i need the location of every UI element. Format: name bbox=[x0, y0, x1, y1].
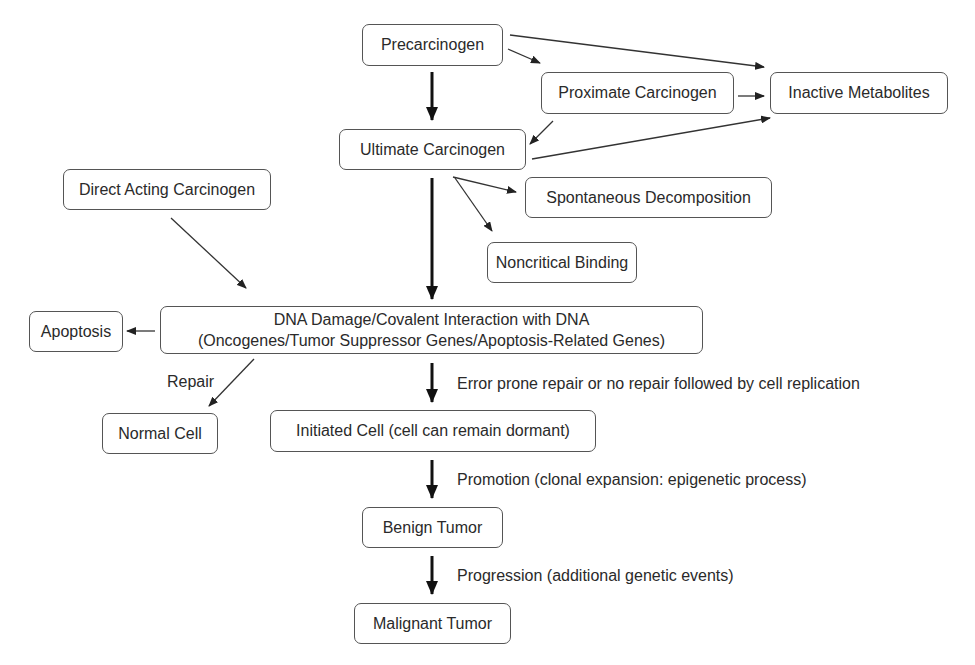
node-label: Spontaneous Decomposition bbox=[546, 187, 751, 209]
edge-label-repair: Repair bbox=[167, 372, 214, 392]
node-benign-tumor: Benign Tumor bbox=[362, 507, 503, 548]
node-precarcinogen: Precarcinogen bbox=[362, 24, 503, 66]
node-noncritical-binding: Noncritical Binding bbox=[487, 242, 637, 283]
node-initiated-cell: Initiated Cell (cell can remain dormant) bbox=[270, 410, 596, 452]
node-label: Initiated Cell (cell can remain dormant) bbox=[296, 420, 570, 442]
node-label: Malignant Tumor bbox=[373, 613, 492, 635]
node-spontaneous-decomposition: Spontaneous Decomposition bbox=[525, 177, 772, 218]
edge-label-progression: Progression (additional genetic events) bbox=[457, 566, 734, 586]
node-proximate-carcinogen: Proximate Carcinogen bbox=[541, 72, 734, 114]
edge-ultimate-inactive bbox=[532, 118, 770, 159]
node-label: Direct Acting Carcinogen bbox=[79, 179, 255, 201]
carcinogenesis-diagram: Precarcinogen Proximate Carcinogen Inact… bbox=[0, 0, 975, 665]
node-inactive-metabolites: Inactive Metabolites bbox=[770, 72, 948, 114]
node-label: Proximate Carcinogen bbox=[558, 82, 716, 104]
edge-proximate-ultimate bbox=[530, 121, 553, 144]
node-dna-damage: DNA Damage/Covalent Interaction with DNA… bbox=[160, 306, 703, 354]
node-label: Ultimate Carcinogen bbox=[360, 139, 505, 161]
edge-ultimate-noncritical bbox=[455, 178, 492, 231]
edge-dna-normal bbox=[209, 359, 254, 406]
node-normal-cell: Normal Cell bbox=[102, 413, 218, 454]
node-label: Apoptosis bbox=[41, 321, 111, 343]
node-apoptosis: Apoptosis bbox=[29, 311, 123, 352]
node-label: Noncritical Binding bbox=[496, 252, 629, 274]
node-label: Inactive Metabolites bbox=[788, 82, 929, 104]
edge-precarcinogen-proximate bbox=[508, 49, 540, 63]
edge-precarcinogen-inactive bbox=[510, 35, 764, 67]
edge-label-promotion: Promotion (clonal expansion: epigenetic … bbox=[457, 470, 807, 490]
node-label: Normal Cell bbox=[118, 423, 202, 445]
edge-label-error-prone: Error prone repair or no repair followed… bbox=[457, 374, 860, 394]
node-malignant-tumor: Malignant Tumor bbox=[354, 603, 511, 644]
node-ultimate-carcinogen: Ultimate Carcinogen bbox=[339, 129, 526, 170]
edge-direct-dna bbox=[171, 218, 246, 288]
node-label: Benign Tumor bbox=[383, 517, 483, 539]
node-label-line1: DNA Damage/Covalent Interaction with DNA bbox=[274, 309, 590, 330]
node-direct-acting-carcinogen: Direct Acting Carcinogen bbox=[63, 169, 271, 210]
node-label-line2: (Oncogenes/Tumor Suppressor Genes/Apopto… bbox=[198, 330, 665, 351]
node-label: Precarcinogen bbox=[381, 34, 484, 56]
